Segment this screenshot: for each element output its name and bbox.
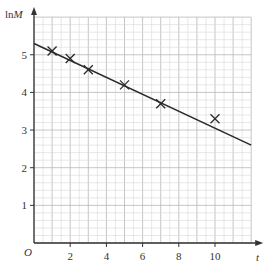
y-tick-label: 4 [22,86,28,98]
origin-label: O [24,246,32,258]
y-tick-label: 5 [22,49,28,61]
chart: 24681012345 lnM t O [0,0,265,274]
axes [31,7,263,246]
x-tick-label: 6 [140,250,146,262]
y-axis-arrow-icon [31,7,37,15]
x-axis-label: t [256,251,260,263]
x-tick-label: 2 [67,250,73,262]
y-tick-label: 2 [22,162,28,174]
x-tick-label: 4 [104,250,110,262]
y-tick-label: 1 [22,199,28,211]
x-tick-label: 8 [176,250,182,262]
y-tick-label: 3 [22,124,28,136]
x-axis-arrow-icon [255,240,263,246]
y-axis-label: lnM [5,8,24,20]
x-tick-label: 10 [210,250,222,262]
